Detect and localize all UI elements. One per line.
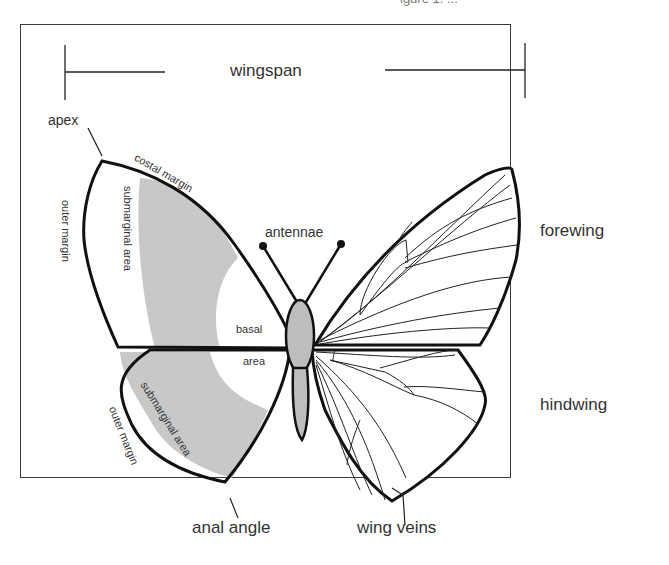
label-antennae: antennae xyxy=(265,225,323,239)
label-anal-angle: anal angle xyxy=(192,519,270,536)
label-apex: apex xyxy=(48,113,78,127)
label-forewing: forewing xyxy=(540,222,604,239)
label-wing-veins: wing veins xyxy=(357,519,436,536)
antennae xyxy=(263,244,341,302)
thorax xyxy=(286,300,314,372)
forewing-submarginal-shading xyxy=(138,178,238,348)
label-outer-margin-forewing: outer margin xyxy=(60,200,71,262)
label-area: area xyxy=(243,356,265,367)
label-wingspan: wingspan xyxy=(230,62,302,79)
antenna-knob-right xyxy=(337,240,345,248)
label-basal: basal xyxy=(236,324,262,335)
abdomen xyxy=(293,368,309,440)
antenna-knob-left xyxy=(259,242,267,250)
hindwing-submarginal-shading xyxy=(120,352,268,478)
label-hindwing: hindwing xyxy=(540,396,607,413)
label-submarginal-area-forewing: submarginal area xyxy=(122,186,133,271)
right-hindwing xyxy=(312,350,486,501)
butterfly-diagram xyxy=(0,0,669,565)
